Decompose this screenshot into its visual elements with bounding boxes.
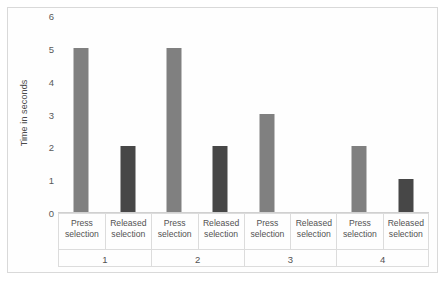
- category-label-line: Released: [203, 218, 239, 229]
- bar-slot: [197, 15, 243, 212]
- category-label-released: Releasedselection: [383, 214, 428, 249]
- bar: [74, 48, 89, 212]
- category-group-number: 1: [59, 250, 151, 268]
- category-label-press: Pressselection: [337, 214, 382, 249]
- bar-slot: [58, 15, 104, 212]
- category-label-line: selection: [389, 229, 423, 240]
- bar-slot: [244, 15, 290, 212]
- category-series-row: PressselectionReleasedselection: [245, 214, 337, 250]
- y-tick-label: 3: [32, 109, 54, 120]
- category-series-row: PressselectionReleasedselection: [152, 214, 244, 250]
- bar-slot: [383, 15, 429, 212]
- category-group: PressselectionReleasedselection4: [336, 213, 429, 267]
- y-tick-label: 5: [32, 43, 54, 54]
- category-group: PressselectionReleasedselection3: [244, 213, 337, 267]
- y-tick-label: 1: [32, 175, 54, 186]
- category-group: PressselectionReleasedselection2: [151, 213, 244, 267]
- category-group: PressselectionReleasedselection1: [58, 213, 151, 267]
- category-label-line: selection: [158, 229, 192, 240]
- bar: [166, 48, 181, 212]
- bar-slot: [105, 15, 151, 212]
- category-series-row: PressselectionReleasedselection: [59, 214, 151, 250]
- category-label-line: Press: [349, 218, 371, 229]
- category-label-line: selection: [250, 229, 284, 240]
- category-group-number: 2: [152, 250, 244, 268]
- y-tick-label: 0: [32, 208, 54, 219]
- category-label-press: Pressselection: [152, 214, 198, 249]
- category-label-press: Pressselection: [245, 214, 291, 249]
- category-label-line: Released: [110, 218, 146, 229]
- y-tick-label: 6: [32, 11, 54, 22]
- plot-area: [58, 16, 429, 213]
- category-label-press: Pressselection: [59, 214, 105, 249]
- category-label-line: selection: [343, 229, 377, 240]
- bar-slot: [151, 15, 197, 212]
- category-series-row: PressselectionReleasedselection: [337, 214, 428, 250]
- category-label-released: Releasedselection: [198, 214, 244, 249]
- category-label-line: Press: [256, 218, 278, 229]
- category-label-line: selection: [111, 229, 145, 240]
- y-axis-ticks: 0123456: [32, 8, 54, 274]
- bar-chart: Time in seconds 0123456 PressselectionRe…: [7, 7, 438, 273]
- category-label-line: Released: [296, 218, 332, 229]
- category-label-line: Released: [388, 218, 424, 229]
- category-label-table: PressselectionReleasedselection1Presssel…: [58, 213, 429, 267]
- bar-slot: [336, 15, 382, 212]
- category-label-line: selection: [65, 229, 99, 240]
- y-tick-label: 4: [32, 76, 54, 87]
- category-label-line: Press: [164, 218, 186, 229]
- bar: [398, 179, 413, 212]
- bar: [352, 146, 367, 212]
- y-tick-label: 2: [32, 142, 54, 153]
- category-label-line: selection: [204, 229, 238, 240]
- category-label-released: Releasedselection: [290, 214, 336, 249]
- category-group-number: 3: [245, 250, 337, 268]
- bar-slot: [290, 15, 336, 212]
- bar: [120, 146, 135, 212]
- category-label-line: Press: [71, 218, 93, 229]
- category-label-line: selection: [297, 229, 331, 240]
- y-axis-title: Time in seconds: [19, 53, 29, 173]
- bar: [213, 146, 228, 212]
- category-label-released: Releasedselection: [105, 214, 151, 249]
- category-group-number: 4: [337, 250, 428, 268]
- bar: [259, 114, 274, 213]
